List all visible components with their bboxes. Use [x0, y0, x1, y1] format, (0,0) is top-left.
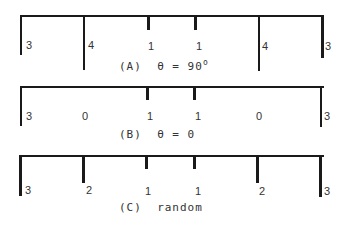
baseline-bar — [19, 155, 324, 157]
intensity-label: 3 — [324, 185, 330, 197]
line-6 — [319, 155, 322, 197]
intensity-label: 3 — [25, 184, 31, 196]
panel-letter: (C) — [119, 201, 142, 214]
line-3 — [145, 155, 148, 169]
line-5 — [256, 155, 259, 183]
panel-c: 3 2 1 1 2 3 (C) random — [0, 0, 346, 225]
intensity-label: 2 — [259, 185, 265, 197]
panel-caption: (C) random — [119, 201, 203, 214]
intensity-label: 2 — [86, 184, 92, 196]
line-1 — [19, 155, 22, 196]
line-2 — [82, 155, 85, 183]
panel-condition: random — [157, 201, 203, 214]
line-4 — [193, 155, 196, 169]
intensity-label: 1 — [145, 185, 151, 197]
intensity-label: 1 — [195, 185, 201, 197]
